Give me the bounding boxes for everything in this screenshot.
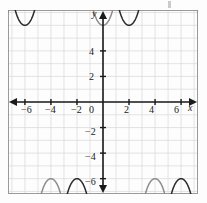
x-tick-label-2: 2	[124, 105, 129, 115]
plot-area	[8, 10, 198, 194]
x-tick-label--4: −4	[45, 105, 56, 115]
y-tick-label-4: 4	[89, 47, 94, 57]
coordinate-plane-svg	[8, 10, 198, 194]
y-tick-label-2: 2	[89, 72, 94, 82]
graph-figure: −6 −4 −2 2 4 6 4 2 −2 −4 −6 0 x y	[0, 0, 207, 203]
x-tick-label-4: 4	[149, 105, 154, 115]
y-axis-label: y	[92, 9, 96, 19]
y-tick-label--2: −2	[85, 127, 96, 137]
x-axis-label: x	[188, 103, 192, 113]
origin-label: 0	[89, 105, 94, 115]
x-tick-label--2: −2	[71, 105, 82, 115]
y-tick-label--6: −6	[85, 177, 96, 187]
x-tick-label-6: 6	[174, 105, 179, 115]
stray-mark	[168, 1, 171, 8]
y-tick-label--4: −4	[85, 152, 96, 162]
x-tick-label--6: −6	[21, 105, 32, 115]
